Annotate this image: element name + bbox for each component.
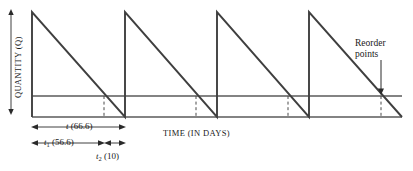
y-axis-label: QUANTITY (Q) (14, 15, 23, 119)
x-axis-label: TIME (IN DAYS) (163, 129, 230, 138)
reorder-annotation-line-1: Reorder (355, 38, 386, 48)
measure-t1-value: (56.6) (52, 137, 74, 147)
reorder-points-arrow (378, 60, 384, 95)
measure-t2-bar (104, 140, 126, 146)
measure-t-symbol: t (66, 121, 69, 131)
inventory-sawtooth-chart: QUANTITY (Q) TIME (IN DAYS) Reorder poin… (0, 0, 413, 171)
reorder-annotation-line-2: points (355, 49, 378, 59)
measure-t2-value: (10) (104, 151, 119, 161)
reorder-points-annotation: Reorder points (355, 38, 386, 59)
measure-t-value: (66.6) (71, 121, 93, 131)
measure-t1-subscript: 1 (47, 141, 50, 148)
inventory-level-curve (32, 12, 402, 117)
measure-t2-label: t2 (10) (96, 152, 119, 163)
measure-t-label: t (66.6) (66, 122, 93, 131)
measure-t2-subscript: 2 (99, 155, 102, 162)
measure-t1-label: t1 (56.6) (44, 138, 74, 149)
